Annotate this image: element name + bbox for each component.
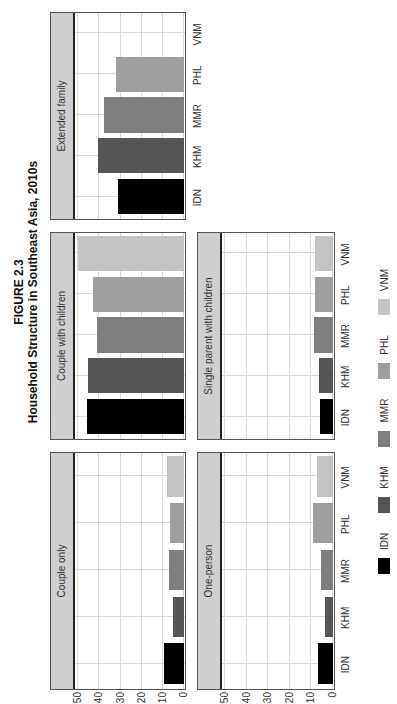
bar-vnm — [317, 456, 333, 496]
gridline — [77, 13, 78, 219]
bar-idn — [318, 644, 333, 684]
plot-area — [222, 233, 334, 439]
gridline — [120, 453, 121, 689]
facet-strip-label: Single parent with children — [198, 233, 222, 439]
facet-panel: Extended family — [50, 12, 186, 220]
legend-item: PHL — [378, 335, 390, 378]
bar-mmr — [169, 550, 184, 590]
x-tick-label: VNM — [340, 234, 351, 274]
legend-label: VNM — [379, 269, 390, 291]
x-tick-label: MMR — [192, 96, 203, 136]
gridline — [246, 453, 247, 689]
gridline — [162, 453, 163, 689]
facet-panel: Couple with children — [50, 232, 186, 440]
gridline — [75, 32, 185, 33]
facet-strip-label: Couple with children — [51, 233, 75, 439]
legend-swatch — [378, 497, 390, 513]
gridline — [246, 233, 247, 439]
chart-canvas: FIGURE 2.3 Household Structure in Southe… — [0, 0, 397, 704]
bar-idn — [164, 644, 184, 684]
legend-item: MMR — [378, 399, 390, 447]
bar-phl — [313, 503, 333, 543]
x-tick-label: IDN — [340, 645, 351, 685]
y-tick-label: 50 — [72, 692, 83, 704]
y-tick-label: 10 — [157, 692, 168, 704]
plot-area — [75, 13, 185, 219]
y-tick-label: 0 — [178, 692, 189, 704]
y-tick-label: 30 — [115, 692, 126, 704]
x-tick-label: KHM — [192, 137, 203, 177]
x-tick-label: IDN — [340, 398, 351, 438]
y-tick-label: 50 — [219, 692, 230, 704]
legend-label: KHM — [379, 467, 390, 489]
facet-panel: Single parent with children — [197, 232, 335, 440]
bar-khm — [98, 138, 184, 173]
plot-area — [222, 453, 334, 689]
bar-vnm — [78, 236, 184, 271]
x-tick-label: IDN — [192, 178, 203, 218]
legend-swatch — [378, 299, 390, 315]
x-tick-label: MMR — [340, 551, 351, 591]
legend-swatch — [378, 363, 390, 379]
x-tick-label: KHM — [340, 598, 351, 638]
bar-mmr — [97, 317, 184, 352]
gridline — [267, 233, 268, 439]
plot-area — [75, 453, 185, 689]
bar-phl — [170, 503, 184, 543]
bar-vnm — [167, 456, 184, 496]
facet-panel: Couple only — [50, 452, 186, 690]
gridline — [141, 453, 142, 689]
legend-label: PHL — [379, 335, 390, 354]
plot-area — [75, 233, 185, 439]
gridline — [222, 416, 334, 417]
gridline — [224, 453, 225, 689]
bar-mmr — [314, 317, 333, 352]
legend-item: VNM — [378, 269, 390, 315]
y-tick-label: 40 — [93, 692, 104, 704]
x-tick-label: VNM — [192, 14, 203, 54]
bar-vnm — [315, 236, 333, 271]
bar-idn — [118, 179, 184, 214]
facet-strip-label: Couple only — [51, 453, 75, 689]
y-tick-label: 10 — [305, 692, 316, 704]
gridline — [98, 453, 99, 689]
bar-idn — [87, 399, 184, 434]
gridline — [222, 616, 334, 617]
facet-panel: One-person — [197, 452, 335, 690]
gridline — [75, 616, 185, 617]
legend-item: IDN — [378, 533, 390, 574]
figure-label: FIGURE 2.3 — [12, 0, 26, 644]
x-tick-label: VNM — [340, 457, 351, 497]
y-tick-label: 0 — [327, 692, 338, 704]
gridline — [75, 522, 185, 523]
y-tick-label: 20 — [284, 692, 295, 704]
legend-item: KHM — [378, 467, 390, 513]
gridline — [267, 453, 268, 689]
gridline — [224, 233, 225, 439]
bar-mmr — [321, 550, 333, 590]
bar-phl — [93, 277, 184, 312]
gridline — [310, 453, 311, 689]
legend-swatch — [378, 431, 390, 447]
gridline — [289, 233, 290, 439]
bar-phl — [116, 57, 184, 92]
figure-title: Household Structure in Southeast Asia, 2… — [26, 0, 40, 644]
gridline — [77, 453, 78, 689]
y-tick-label: 20 — [136, 692, 147, 704]
y-tick-label: 40 — [241, 692, 252, 704]
legend: IDNKHMMMRPHLVNM — [376, 249, 392, 574]
bar-mmr — [104, 97, 184, 132]
bar-khm — [173, 597, 184, 637]
gridline — [222, 569, 334, 570]
legend-label: MMR — [379, 399, 390, 423]
bar-khm — [325, 597, 333, 637]
x-tick-label: PHL — [192, 55, 203, 95]
y-tick-label: 30 — [262, 692, 273, 704]
x-tick-label: PHL — [340, 275, 351, 315]
facet-strip-label: One-person — [198, 453, 222, 689]
bar-phl — [315, 277, 333, 312]
x-tick-label: MMR — [340, 316, 351, 356]
gridline — [98, 13, 99, 219]
gridline — [222, 375, 334, 376]
gridline — [310, 233, 311, 439]
